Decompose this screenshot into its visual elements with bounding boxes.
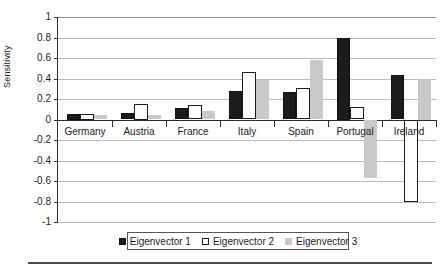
legend-label: Eigenvector 3	[296, 236, 357, 247]
bar-spain-ev3	[310, 60, 324, 119]
bar-group	[283, 17, 324, 222]
y-tick-label: 0.4	[37, 74, 51, 84]
bar-italy-ev3	[256, 80, 270, 120]
bar-ireland-ev3	[418, 79, 432, 120]
y-tick-label: 0.2	[37, 94, 51, 104]
bar-france-ev2	[188, 105, 202, 119]
bar-spain-ev2	[296, 88, 310, 120]
bar-germany-ev3	[94, 115, 108, 119]
legend-swatch-icon	[119, 238, 126, 245]
y-axis-title: Sensitivity	[2, 0, 12, 88]
legend-swatch-icon	[202, 238, 209, 245]
bar-group	[229, 17, 270, 222]
y-tick-mark	[54, 79, 58, 80]
bar-spain-ev1	[283, 92, 297, 120]
y-tick-mark	[54, 99, 58, 100]
y-tick-mark	[54, 58, 58, 59]
y-tick-label: 0.6	[37, 53, 51, 63]
gridline: -1	[58, 222, 436, 223]
bar-italy-ev1	[229, 91, 243, 120]
bar-italy-ev2	[242, 72, 256, 119]
y-tick-label: 0	[45, 115, 51, 125]
y-tick-label: -0.6	[34, 176, 51, 186]
bar-germany-ev2	[80, 114, 94, 119]
y-tick-label: -0.8	[34, 197, 51, 207]
bar-group	[67, 17, 108, 222]
x-axis-label-austria: Austria	[112, 126, 166, 137]
y-tick-label: -0.4	[34, 156, 51, 166]
legend-item-eigenvector-2[interactable]: Eigenvector 2	[202, 236, 274, 247]
bar-ireland-ev1	[391, 75, 405, 119]
bar-france-ev3	[202, 111, 216, 119]
legend-item-eigenvector-3[interactable]: Eigenvector 3	[285, 236, 357, 247]
category-separator-tick	[436, 120, 437, 127]
bar-group	[391, 17, 432, 222]
y-tick-label: 0.8	[37, 33, 51, 43]
bar-group	[175, 17, 216, 222]
y-tick-label: -1	[42, 217, 51, 227]
legend-label: Eigenvector 2	[213, 236, 274, 247]
bar-austria-ev2	[134, 104, 148, 119]
x-axis-label-ireland: Ireland	[382, 126, 436, 137]
y-tick-mark	[54, 222, 58, 223]
bottom-divider	[28, 262, 432, 264]
legend-swatch-icon	[285, 238, 292, 245]
x-axis-label-portugal: Portugal	[328, 126, 382, 137]
y-tick-mark	[54, 202, 58, 203]
bar-germany-ev1	[67, 114, 81, 119]
sensitivity-bar-chart: Sensitivity 10.80.60.40.20-0.2-0.4-0.6-0…	[0, 0, 446, 271]
bar-austria-ev3	[148, 115, 162, 119]
y-tick-mark	[54, 38, 58, 39]
legend-label: Eigenvector 1	[130, 236, 191, 247]
legend-item-eigenvector-1[interactable]: Eigenvector 1	[119, 236, 191, 247]
x-axis-label-france: France	[166, 126, 220, 137]
x-axis-label-germany: Germany	[58, 126, 112, 137]
y-tick-label: 1	[45, 12, 51, 22]
y-tick-mark	[54, 17, 58, 18]
bar-group	[337, 17, 378, 222]
bar-france-ev1	[175, 108, 189, 119]
bar-austria-ev1	[121, 113, 135, 119]
y-tick-mark	[54, 140, 58, 141]
y-tick-label: -0.2	[34, 135, 51, 145]
chart-legend: Eigenvector 1Eigenvector 2Eigenvector 3	[127, 232, 349, 250]
bar-group	[121, 17, 162, 222]
x-axis-label-spain: Spain	[274, 126, 328, 137]
x-axis-label-italy: Italy	[220, 126, 274, 137]
y-tick-mark	[54, 181, 58, 182]
bar-portugal-ev1	[337, 38, 351, 120]
y-tick-mark	[54, 161, 58, 162]
plot-area: 10.80.60.40.20-0.2-0.4-0.6-0.8-1	[58, 17, 436, 222]
y-tick-mark	[54, 120, 58, 121]
bar-portugal-ev2	[350, 107, 364, 119]
